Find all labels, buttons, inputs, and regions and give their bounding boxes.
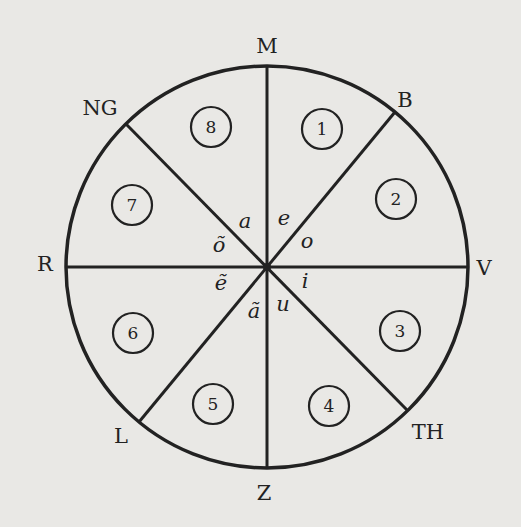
number-text: 4 — [324, 396, 335, 416]
consonant-label-m: M — [256, 34, 278, 58]
number-text: 2 — [391, 189, 402, 209]
consonant-label-ng: NG — [82, 96, 117, 120]
consonant-label-r: R — [37, 252, 54, 276]
number-text: 6 — [128, 323, 139, 343]
sector-number-5: 5 — [193, 384, 233, 424]
vowel-label: õ — [213, 233, 226, 257]
consonant-label-z: Z — [257, 481, 272, 505]
sector-number-7: 7 — [112, 185, 152, 225]
center-dot — [263, 263, 271, 271]
consonant-label-l: L — [114, 424, 128, 448]
vowel-label: a — [239, 209, 252, 233]
sector-number-6: 6 — [113, 313, 153, 353]
vowel-label: e — [278, 206, 290, 230]
diagram-canvas: MBVTHZLRNG 12345678 aeoiuãẽõ — [0, 0, 521, 527]
number-text: 1 — [317, 119, 328, 139]
consonant-label-th: TH — [412, 420, 444, 444]
number-text: 3 — [395, 321, 406, 341]
consonant-vowel-wheel: MBVTHZLRNG 12345678 aeoiuãẽõ — [0, 0, 521, 527]
vowel-label: ẽ — [215, 271, 228, 295]
sector-number-2: 2 — [376, 179, 416, 219]
sector-number-4: 4 — [309, 386, 349, 426]
number-text: 8 — [206, 117, 217, 137]
consonant-label-b: B — [397, 88, 412, 112]
sector-number-8: 8 — [191, 107, 231, 147]
sector-number-1: 1 — [302, 109, 342, 149]
vowel-label: i — [302, 269, 309, 293]
vowel-label: ã — [248, 299, 261, 323]
sector-number-3: 3 — [380, 311, 420, 351]
consonant-label-v: V — [475, 256, 492, 280]
number-text: 7 — [127, 195, 138, 215]
vowel-label: u — [276, 292, 290, 316]
vowel-label: o — [301, 229, 314, 253]
number-text: 5 — [208, 394, 219, 414]
